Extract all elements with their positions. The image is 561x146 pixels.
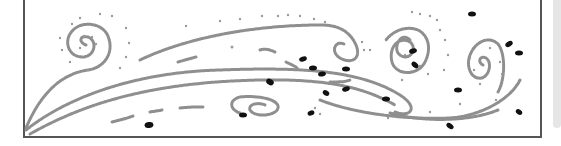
wind-swirl-illustration bbox=[0, 0, 561, 146]
